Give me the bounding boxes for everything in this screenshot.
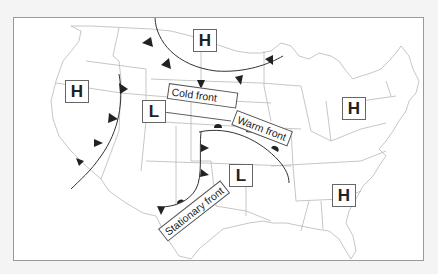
central-cold-front [156, 111, 231, 121]
us-map [14, 18, 424, 261]
high-pressure-northeast: H [342, 97, 366, 120]
high-pressure-southeast: H [332, 184, 356, 207]
high-pressure-north-plains: H [193, 29, 217, 52]
low-pressure-plains: L [229, 164, 253, 187]
low-pressure-rockies: L [142, 100, 166, 123]
weather-map-frame: H H L H L H Cold front Warm front Statio… [13, 17, 424, 261]
high-pressure-west: H [65, 80, 89, 103]
state-borders [51, 26, 419, 259]
